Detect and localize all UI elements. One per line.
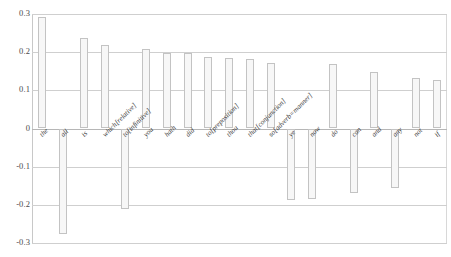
bar: [370, 72, 378, 128]
bar: [80, 38, 88, 128]
bar: [287, 129, 295, 201]
bar: [142, 49, 150, 128]
bar: [433, 80, 441, 128]
y-axis-tick-labels: 0.30.20.10-0.1-0.2-0.3: [0, 14, 30, 243]
y-tick-label: -0.3: [0, 238, 30, 247]
bar: [38, 17, 46, 128]
bar: [101, 45, 109, 129]
bar: [267, 63, 275, 129]
y-tick-label: -0.2: [0, 200, 30, 209]
gridline-neg0p3: [32, 243, 447, 244]
bars-group: [32, 14, 447, 243]
bar: [391, 129, 399, 189]
bar: [204, 57, 212, 129]
y-tick-label: -0.1: [0, 162, 30, 171]
bar: [225, 58, 233, 129]
bar: [246, 59, 254, 128]
bar: [121, 129, 129, 210]
bar-chart: 0.30.20.10-0.1-0.2-0.3 thealliswhich[rel…: [0, 0, 451, 257]
bar: [184, 53, 192, 129]
bar: [308, 129, 316, 199]
plot-area: [32, 14, 447, 243]
bar: [412, 78, 420, 129]
bar: [59, 129, 67, 235]
y-tick-label: 0.1: [0, 85, 30, 94]
bar: [329, 64, 337, 129]
bar: [163, 53, 171, 129]
y-tick-label: 0.3: [0, 9, 30, 18]
y-tick-label: 0: [0, 124, 30, 133]
y-tick-label: 0.2: [0, 47, 30, 56]
bar: [350, 129, 358, 193]
